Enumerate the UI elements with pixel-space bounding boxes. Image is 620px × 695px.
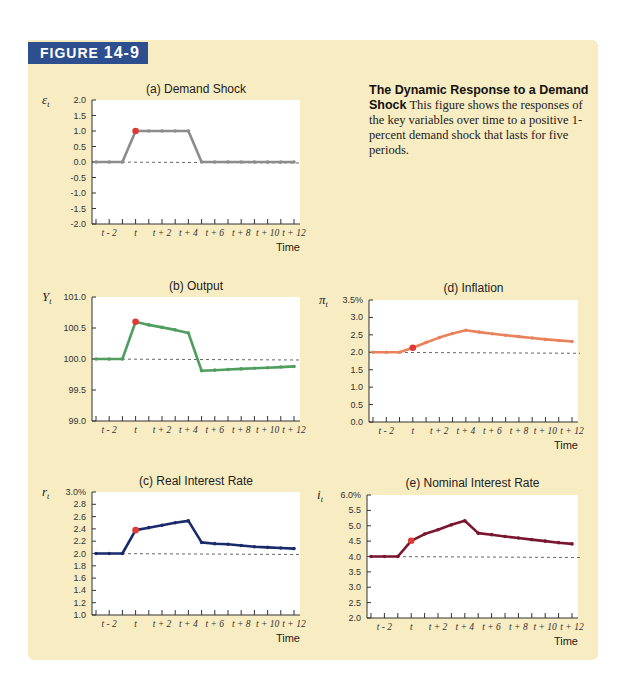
data-point: [517, 536, 521, 540]
y-tick-label: 5.0: [348, 521, 361, 531]
data-point: [490, 533, 494, 537]
data-point: [503, 535, 507, 539]
data-point: [436, 528, 440, 532]
shock-marker: [408, 538, 415, 545]
data-point: [476, 531, 480, 535]
y-tick-label: 5.5: [348, 505, 361, 515]
x-tick-label: t + 12: [560, 622, 584, 632]
y-tick-label: 6.0%: [340, 490, 361, 500]
x-tick-label: t + 4: [456, 622, 475, 632]
data-point: [570, 542, 574, 546]
y-variable-label: it: [317, 487, 324, 504]
data-point: [396, 555, 400, 559]
data-point: [369, 555, 373, 559]
data-point: [450, 523, 454, 527]
chart-title: (e) Nominal Interest Rate: [405, 476, 539, 490]
x-axis-title: Time: [554, 635, 578, 647]
x-tick-label: t - 2: [377, 622, 393, 632]
chart-nominal-interest-rate: (e) Nominal Interest Rateit6.0%5.55.04.5…: [0, 0, 620, 695]
y-tick-label: 4.5: [348, 536, 361, 546]
y-tick-label: 4.0: [348, 552, 361, 562]
data-point: [423, 532, 427, 536]
data-point: [543, 539, 547, 543]
y-tick-label: 2.0: [348, 613, 361, 623]
x-tick-label: t + 2: [429, 622, 448, 632]
y-tick-label: 3.0: [348, 582, 361, 592]
y-tick-label: 3.5: [348, 567, 361, 577]
x-tick-label: t + 6: [482, 622, 501, 632]
x-tick-label: t + 10: [534, 622, 558, 632]
x-tick-label: t + 8: [509, 622, 528, 632]
data-point: [383, 555, 387, 559]
x-tick-label: t: [410, 622, 413, 632]
data-point: [557, 541, 561, 545]
data-point: [463, 519, 467, 523]
y-tick-label: 2.5: [348, 598, 361, 608]
data-point: [530, 538, 534, 542]
